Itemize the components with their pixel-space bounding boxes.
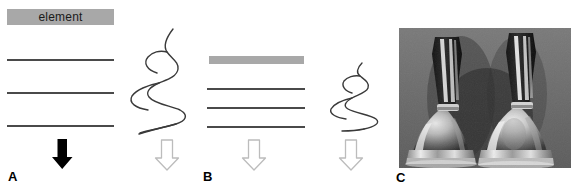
panel-a-line-3 [7,125,114,127]
element-bar-label: element [38,10,82,24]
solid-black-down-arrow [52,139,73,169]
panel-a-element-bar: element [7,9,114,25]
panel-a-line-2 [7,92,114,94]
panel-b-line-2 [207,107,305,109]
panel-a-line-1 [7,59,114,61]
panel-label-c: C [396,171,405,184]
figure-canvas: element A B [0,0,574,191]
large-vibration-wave-icon [140,29,185,133]
handbells-photo-svg [399,28,571,168]
panel-b-line-1 [207,88,305,90]
hollow-arrow-2 [243,140,266,170]
small-vibration-wave-icon [345,63,377,129]
panel-b-line-3 [207,126,305,128]
large-vibration-wave-lower [131,51,176,134]
hollow-arrow-1 [156,140,179,170]
handbells-photograph [399,28,571,168]
panel-label-a: A [8,170,17,183]
hollow-arrow-3 [340,140,363,170]
panel-b-gray-bar [209,56,304,64]
panel-label-b: B [203,170,212,183]
small-vibration-wave-lower [331,76,364,131]
